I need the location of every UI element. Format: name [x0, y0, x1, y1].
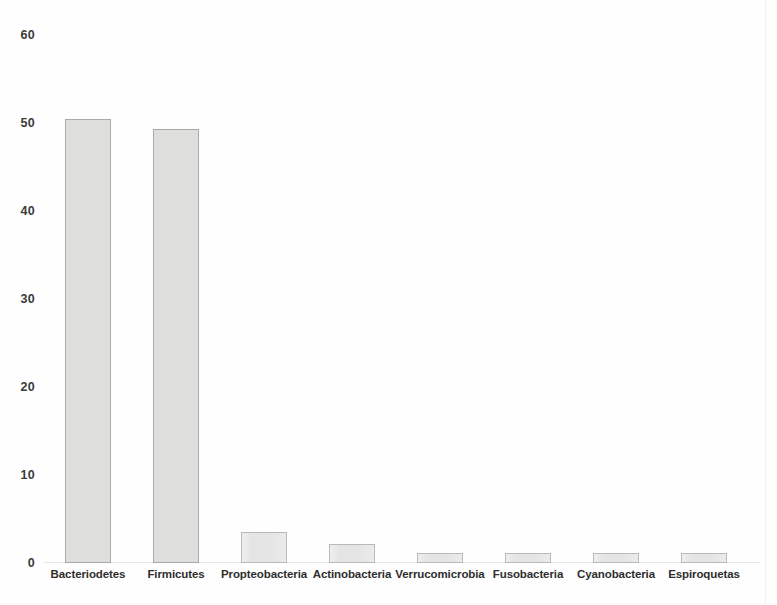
x-axis-labels: Bacteriodetes Firmicutes Propteobacteria…	[44, 568, 760, 598]
bar-slot-bacteriodetes	[44, 25, 132, 563]
bar-slot-cyanobacteria	[572, 25, 660, 563]
bar-slot-verrucomicrobia	[396, 25, 484, 563]
bar-bacteriodetes[interactable]	[65, 119, 111, 563]
bar-actinobacteria[interactable]	[329, 544, 375, 563]
bar-cyanobacteria[interactable]	[593, 553, 639, 563]
y-tick-label-20: 20	[20, 380, 35, 394]
bar-slot-actinobacteria	[308, 25, 396, 563]
bar-propteobacteria[interactable]	[241, 532, 287, 563]
y-tick-label-40: 40	[20, 204, 35, 218]
y-tick-label-10: 10	[20, 468, 35, 482]
bar-slot-propteobacteria	[220, 25, 308, 563]
bar-firmicutes[interactable]	[153, 129, 199, 563]
x-tick-label-espiroquetas: Espiroquetas	[649, 568, 759, 580]
bar-chart: 60 50 40 30 20 10 0	[0, 0, 777, 605]
bar-verrucomicrobia[interactable]	[417, 553, 463, 563]
bar-espiroquetas[interactable]	[681, 553, 727, 563]
y-tick-label-50: 50	[20, 116, 35, 130]
bar-fusobacteria[interactable]	[505, 553, 551, 563]
bar-slot-firmicutes	[132, 25, 220, 563]
bar-series	[44, 25, 760, 563]
bar-slot-espiroquetas	[660, 25, 748, 563]
plot-area: 60 50 40 30 20 10 0	[44, 25, 760, 565]
bar-slot-fusobacteria	[484, 25, 572, 563]
y-tick-label-30: 30	[20, 292, 35, 306]
y-tick-label-60: 60	[20, 28, 35, 42]
page-edge-artifact	[765, 0, 766, 605]
